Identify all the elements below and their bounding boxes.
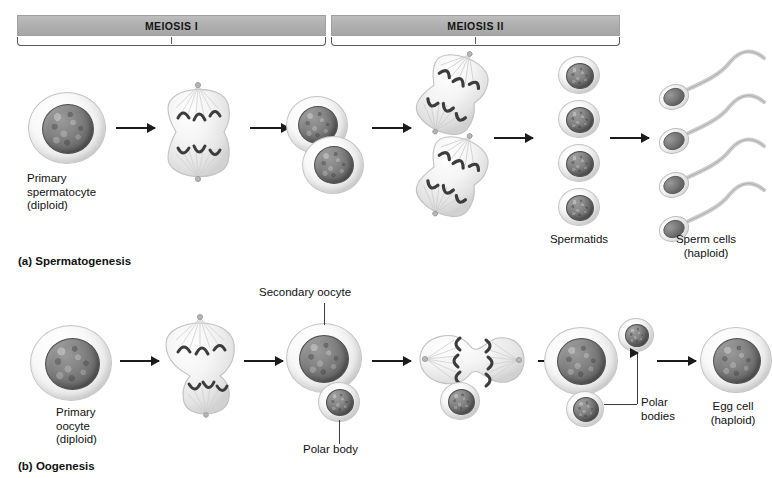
cell-primary-spermatocyte (28, 92, 106, 164)
cell-secondary-spermatocyte-2 (302, 136, 364, 194)
arrow-spermato-3 (372, 127, 411, 129)
cell-polar-body-upper (618, 318, 654, 352)
meiosis-figure: MEIOSIS I MEIOSIS II Primary spermatocyt… (0, 0, 772, 478)
sperm-cell-group (660, 48, 772, 232)
label-secondary-oocyte: Secondary oocyte (259, 286, 351, 300)
cell-polar-body-dividing (440, 382, 480, 420)
bracket-tick-meiosis-1 (171, 37, 172, 44)
nucleus-secondary-oocyte (299, 335, 349, 383)
leader-polar-bodies-upper (637, 352, 638, 404)
bracket-tick-meiosis-2 (475, 37, 476, 44)
cell-spermatid-2 (558, 100, 600, 138)
arrow-oogen-3 (372, 360, 411, 362)
label-primary-spermatocyte: Primary spermatocyte (diploid) (27, 172, 127, 213)
cell-spermatid-3 (558, 144, 600, 182)
cell-secondary-oocyte (286, 323, 362, 393)
leader-secondary-oocyte (324, 303, 325, 325)
arrow-spermato-5 (610, 137, 649, 139)
cell-meiosis1-oocyte (154, 310, 258, 420)
cell-polar-body-lower (566, 391, 604, 427)
arrow-spermato-2 (250, 127, 289, 129)
nucleus-spermatid-4 (566, 195, 594, 221)
label-egg-cell: Egg cell (haploid) (688, 400, 772, 427)
cell-egg (700, 327, 772, 393)
phase-bar-meiosis-1: MEIOSIS I (17, 15, 326, 36)
phase-bar-meiosis-1-label: MEIOSIS I (145, 20, 198, 32)
nucleus-spermatid-2 (566, 107, 594, 133)
arrow-oogen-5 (657, 360, 696, 362)
leader-polar-bodies-lower (604, 404, 637, 405)
cell-ootid (544, 327, 618, 395)
arrow-oogen-2 (244, 360, 283, 362)
nucleus-ootid (557, 338, 606, 385)
cell-meiosis1-spermatocyte (152, 78, 262, 186)
cell-first-polar-body (318, 382, 360, 422)
nucleus-egg (713, 338, 761, 384)
nucleus-spermatid-1 (566, 63, 594, 89)
cell-spermatid-1 (558, 56, 600, 94)
phase-bar-meiosis-2: MEIOSIS II (331, 15, 620, 36)
arrow-spermato-4 (494, 137, 533, 139)
cell-spermatid-4 (558, 188, 600, 226)
label-spermatids: Spermatids (537, 233, 621, 247)
nucleus-polar-body-lower (573, 397, 599, 422)
nucleus-spermatid-3 (566, 151, 594, 177)
panel-label-oogenesis: (b) Oogenesis (18, 460, 95, 472)
leader-first-polar-body (339, 420, 340, 444)
nucleus-primary-spermatocyte (42, 104, 94, 154)
cell-primary-oocyte (30, 325, 112, 401)
phase-bar-meiosis-2-label: MEIOSIS II (447, 20, 504, 32)
nucleus-first-polar-body (326, 389, 354, 416)
panel-label-spermatogenesis: (a) Spermatogenesis (18, 255, 131, 267)
label-sperm-cells: Sperm cells (haploid) (654, 233, 758, 260)
nucleus-primary-oocyte (45, 338, 100, 390)
nucleus-secondary-spermatocyte-2 (314, 146, 354, 184)
cell-meiosis2-spermatocyte-1 (414, 50, 510, 132)
label-primary-oocyte: Primary oocyte (diploid) (56, 406, 156, 447)
arrow-spermato-1 (116, 127, 155, 129)
cell-meiosis2-spermatocyte-2 (414, 132, 510, 214)
nucleus-polar-body-dividing (448, 389, 475, 415)
label-first-polar-body: Polar body (303, 443, 358, 457)
nucleus-polar-body-upper (625, 324, 649, 347)
label-polar-bodies: Polar bodies (641, 396, 675, 423)
